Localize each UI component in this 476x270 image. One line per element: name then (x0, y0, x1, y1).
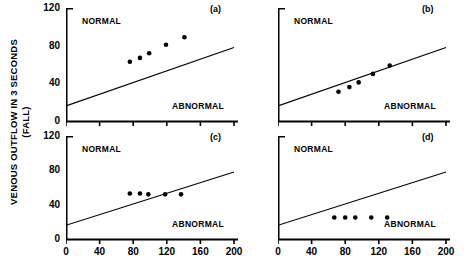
x-tick-label: 40 (87, 247, 113, 257)
reference-line (66, 172, 234, 225)
reference-line (278, 48, 446, 106)
x-tick-label: 80 (332, 247, 358, 257)
zone-label-normal: NORMAL (82, 145, 121, 154)
reference-line (278, 172, 446, 225)
figure-venous-outflow-panels: VENOUS OUTFLOW IN 3 SECONDS (FALL) NORMA… (0, 0, 476, 270)
x-tick-label: 0 (265, 247, 291, 257)
data-point (353, 215, 358, 220)
zone-label-normal: NORMAL (294, 145, 333, 154)
zone-label-abnormal: ABNORMAL (172, 220, 224, 229)
data-point (147, 51, 152, 56)
data-point (138, 56, 143, 61)
data-point (163, 192, 168, 197)
y-tick-label: 120 (34, 3, 60, 13)
y-tick-label: 40 (34, 78, 60, 88)
scatter-panel-b (278, 8, 456, 147)
y-tick-label: 40 (34, 200, 60, 210)
panel-tag: (c) (210, 133, 221, 142)
data-point (146, 192, 151, 197)
plot-area (66, 8, 244, 147)
data-point (387, 63, 392, 68)
zone-label-abnormal: ABNORMAL (172, 102, 224, 111)
x-tick-label: 120 (154, 247, 180, 257)
y-tick-label: 0 (34, 234, 60, 244)
plot-area (66, 136, 244, 265)
data-point (182, 35, 187, 40)
x-tick-label: 40 (299, 247, 325, 257)
panel-tag: (d) (422, 133, 434, 142)
panel-tag: (a) (210, 5, 221, 14)
data-point (343, 215, 348, 220)
data-point (179, 192, 184, 197)
data-point (128, 191, 133, 196)
y-tick-label: 80 (34, 41, 60, 51)
panel-tag: (b) (422, 5, 434, 14)
x-tick-label: 80 (120, 247, 146, 257)
data-point (138, 191, 143, 196)
data-point (356, 80, 361, 85)
scatter-panel-c (66, 136, 244, 265)
zone-label-normal: NORMAL (294, 17, 333, 26)
x-tick-label: 160 (399, 247, 425, 257)
data-point (332, 215, 337, 220)
y-axis-label-line2: (FALL) (20, 39, 32, 205)
scatter-panel-a (66, 8, 244, 147)
reference-line (66, 48, 234, 106)
data-point (369, 215, 374, 220)
x-tick-label: 200 (221, 247, 247, 257)
data-point (336, 90, 341, 95)
data-point (128, 59, 133, 64)
zone-label-abnormal: ABNORMAL (384, 102, 436, 111)
plot-area (278, 8, 456, 147)
y-tick-label: 120 (34, 131, 60, 141)
zone-label-abnormal: ABNORMAL (384, 220, 436, 229)
y-axis-label-line1: VENOUS OUTFLOW IN 3 SECONDS (8, 39, 20, 205)
y-tick-label: 0 (34, 116, 60, 126)
x-tick-label: 160 (187, 247, 213, 257)
x-tick-label: 120 (366, 247, 392, 257)
x-tick-label: 200 (433, 247, 459, 257)
zone-label-normal: NORMAL (82, 17, 121, 26)
data-point (164, 42, 169, 47)
x-tick-label: 0 (53, 247, 79, 257)
scatter-panel-d (278, 136, 456, 265)
y-tick-label: 80 (34, 165, 60, 175)
data-point (347, 85, 352, 90)
data-point (371, 72, 376, 77)
plot-area (278, 136, 456, 265)
